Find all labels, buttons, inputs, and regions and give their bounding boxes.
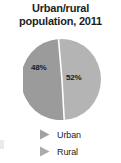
pie-slice-rural-value: 52% xyxy=(66,73,81,82)
pie-chart xyxy=(23,39,101,120)
pie-slice-urban-value: 48% xyxy=(31,63,46,72)
chart-title-line-2: population, 2011 xyxy=(0,15,121,28)
legend-item-rural: Rural xyxy=(38,143,121,160)
pie-chart-svg xyxy=(23,39,101,120)
legend-item-urban: Urban xyxy=(38,126,121,143)
page-title: Urban/rural population, 2011 xyxy=(0,2,121,28)
page-edge-artifact xyxy=(0,140,4,149)
legend-item-urban-label: Urban xyxy=(57,130,81,140)
chart-legend: Urban Rural xyxy=(38,126,121,160)
triangle-right-icon xyxy=(38,145,51,158)
legend-item-rural-label: Rural xyxy=(57,147,78,157)
chart-title-line-1: Urban/rural xyxy=(32,2,89,14)
pie-slice-urban xyxy=(23,39,64,120)
triangle-right-icon xyxy=(38,128,51,141)
pie-chart-figure: Urban/rural population, 2011 48% 52% Urb… xyxy=(0,0,121,163)
